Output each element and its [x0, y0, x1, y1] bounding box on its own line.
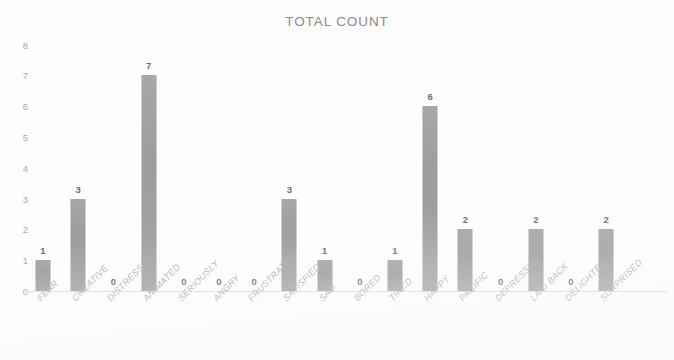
bar-group[interactable]: 1 [308, 0, 342, 300]
bar[interactable] [282, 199, 297, 291]
bar-group[interactable]: 0 [484, 0, 518, 300]
bar-group[interactable]: 2 [589, 0, 623, 300]
bar-value-label: 2 [533, 214, 538, 225]
bar-group[interactable]: 2 [519, 0, 553, 300]
plot-area: 012345678 13070003101620202 [0, 0, 674, 300]
bar-group[interactable]: 3 [61, 0, 95, 300]
bar-value-label: 3 [287, 184, 292, 195]
bar-group[interactable]: 1 [378, 0, 412, 300]
y-axis-tick: 6 [6, 101, 28, 112]
bar-chart: TOTAL COUNT 012345678 13070003101620202 … [0, 0, 674, 360]
bar-group[interactable]: 0 [96, 0, 130, 300]
y-axis-tick: 2 [6, 224, 28, 235]
bar-value-label: 3 [76, 184, 81, 195]
bar-value-label: 1 [322, 245, 327, 256]
y-axis-tick: 4 [6, 162, 28, 173]
bar-group[interactable]: 0 [202, 0, 236, 300]
bar-group[interactable]: 2 [448, 0, 482, 300]
bar-group[interactable]: 1 [26, 0, 60, 300]
bar[interactable] [423, 106, 438, 291]
y-axis-tick: 7 [6, 70, 28, 81]
bar-group[interactable]: 0 [554, 0, 588, 300]
y-axis-tick: 3 [6, 193, 28, 204]
bar-value-label: 2 [463, 214, 468, 225]
bar-value-label: 1 [392, 245, 397, 256]
bar-group[interactable]: 6 [413, 0, 447, 300]
bar-group[interactable]: 0 [167, 0, 201, 300]
bar-group[interactable]: 0 [343, 0, 377, 300]
bar-value-label: 1 [40, 245, 45, 256]
bar[interactable] [71, 199, 86, 291]
bar-value-label: 7 [146, 60, 151, 71]
bar-value-label: 2 [604, 214, 609, 225]
y-axis-tick: 0 [6, 286, 28, 297]
y-axis-tick: 5 [6, 132, 28, 143]
x-axis: FEARCREATIVEDISTRESSEDANIMATEDSERIOUSLYA… [0, 296, 674, 360]
bar-group[interactable]: 0 [237, 0, 271, 300]
y-axis-tick: 8 [6, 39, 28, 50]
y-axis-tick: 1 [6, 255, 28, 266]
bar-value-label: 6 [428, 91, 433, 102]
